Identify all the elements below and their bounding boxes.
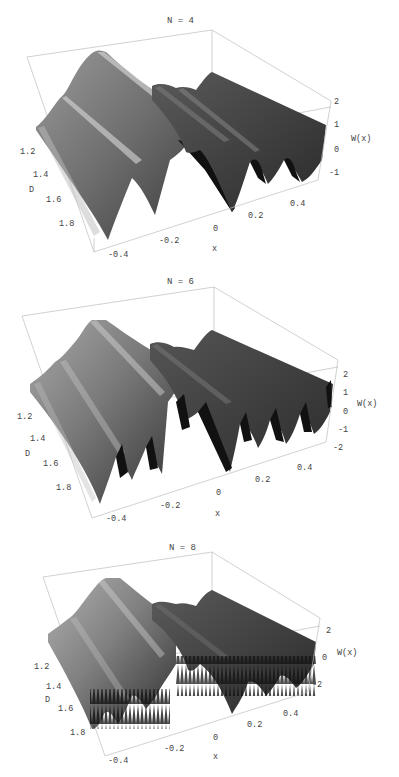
x-axis-label: x	[212, 244, 217, 254]
cropped-caption-fragment	[105, 770, 395, 777]
y-tick: 1.6	[43, 459, 58, 469]
x-tick: 0	[213, 224, 218, 234]
x-axis-label: x	[213, 752, 218, 762]
x-tick: 0	[216, 488, 221, 498]
z-tick: -1	[329, 168, 339, 178]
y-tick: 1.2	[20, 147, 35, 157]
z-tick: -2	[312, 680, 322, 690]
plot-panel-n6: N = 6 2 1 0 -1 -2 W(x) 1.2 1.4 D 1.6 1.8…	[0, 262, 399, 524]
z-tick: 1	[334, 120, 339, 130]
z-tick: 0	[322, 653, 327, 663]
z-tick: 2	[326, 626, 331, 636]
x-tick: -0.4	[106, 514, 126, 524]
z-tick: 0	[334, 145, 339, 155]
z-axis-label: W(x)	[357, 399, 377, 409]
y-tick: 1.8	[70, 728, 85, 738]
x-tick: -0.4	[108, 756, 128, 766]
z-tick: 2	[343, 370, 348, 380]
x-tick: 0.2	[248, 211, 263, 221]
x-tick: 0.4	[297, 463, 312, 473]
x-axis-label: x	[215, 509, 220, 519]
x-tick: 0.4	[283, 709, 298, 719]
y-tick: 1.6	[58, 704, 73, 714]
z-tick: 2	[334, 97, 339, 107]
y-tick: 1.4	[30, 434, 45, 444]
x-tick: -0.2	[159, 236, 179, 246]
y-tick: 1.6	[46, 195, 61, 205]
y-tick: 1.8	[59, 219, 74, 229]
plot-title: N = 8	[169, 543, 196, 553]
y-axis-label: D	[25, 449, 30, 459]
x-tick: -0.2	[160, 501, 180, 511]
z-tick: -1	[338, 425, 348, 435]
x-tick: 0	[213, 733, 218, 743]
x-tick: 0.4	[290, 199, 305, 209]
z-tick: -2	[333, 443, 343, 453]
z-axis-label: W(x)	[337, 648, 357, 658]
surface-plot-n8	[0, 524, 399, 770]
plot-panel-n8: N = 8 2 0 -2 W(x) 1.2 1.4 D 1.6 1.8 -0.4…	[0, 524, 399, 770]
y-tick: 1.2	[34, 662, 49, 672]
plot-title: N = 6	[167, 277, 194, 287]
x-tick: -0.4	[108, 250, 128, 260]
z-axis-label: W(x)	[351, 134, 371, 144]
z-tick: 1	[343, 388, 348, 398]
y-axis-label: D	[29, 185, 34, 195]
y-tick: 1.8	[56, 483, 71, 493]
x-tick: 0.2	[247, 720, 262, 730]
x-tick: 0.2	[255, 475, 270, 485]
y-tick: 1.2	[17, 412, 32, 422]
y-axis-label: D	[45, 695, 50, 705]
z-tick: 0	[343, 407, 348, 417]
x-tick: -0.2	[164, 744, 184, 754]
y-tick: 1.4	[46, 682, 61, 692]
y-tick: 1.4	[33, 170, 48, 180]
plot-panel-n4: N = 4 2 1 0 -1 W(x) 1.2 1.4 D 1.6 1.8 -0…	[0, 0, 399, 262]
plot-title: N = 4	[167, 16, 194, 26]
